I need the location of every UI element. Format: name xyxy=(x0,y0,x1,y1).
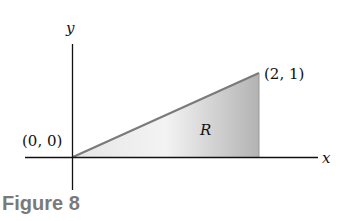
origin-label: (0, 0) xyxy=(22,132,62,150)
diagram-canvas: y x (0, 0) (2, 1) R xyxy=(0,0,346,221)
region-r xyxy=(73,73,259,157)
y-axis-label: y xyxy=(65,19,75,37)
apex-label: (2, 1) xyxy=(264,65,304,83)
figure-caption: Figure 8 xyxy=(2,192,80,215)
region-label: R xyxy=(199,121,211,139)
x-axis-label: x xyxy=(322,149,331,167)
